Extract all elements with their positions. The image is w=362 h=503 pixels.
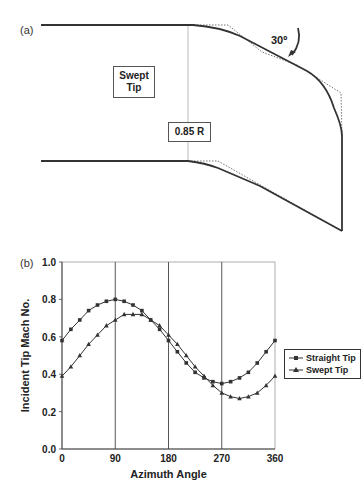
square-marker-icon <box>69 328 73 332</box>
square-marker-icon <box>122 299 126 303</box>
triangle-marker-icon <box>157 323 162 327</box>
square-marker-icon <box>96 303 100 307</box>
y-tick-label: 0.0 <box>42 444 56 455</box>
square-marker-icon <box>167 339 171 343</box>
x-tick-label: 180 <box>160 453 177 464</box>
mach-number-chart: 0901802703600.00.20.40.60.81.0Azimuth An… <box>0 0 362 503</box>
square-marker-icon <box>193 371 197 375</box>
square-marker-icon <box>247 371 251 375</box>
square-marker-icon <box>289 354 303 362</box>
legend-label: Straight Tip <box>306 353 356 363</box>
y-tick-label: 0.6 <box>42 332 56 343</box>
square-marker-icon <box>87 309 91 313</box>
square-marker-icon <box>131 303 135 307</box>
y-tick-label: 1.0 <box>42 257 56 268</box>
square-marker-icon <box>255 361 259 365</box>
square-marker-icon <box>229 380 233 384</box>
x-tick-label: 360 <box>267 453 284 464</box>
square-marker-icon <box>78 318 82 322</box>
square-marker-icon <box>264 350 268 354</box>
triangle-marker-icon <box>113 317 118 321</box>
square-marker-icon <box>176 350 180 354</box>
square-marker-icon <box>184 361 188 365</box>
triangle-marker-icon <box>289 366 303 374</box>
square-marker-icon <box>60 339 64 343</box>
square-marker-icon <box>238 376 242 380</box>
square-marker-icon <box>220 382 224 386</box>
legend-item-straight-tip: Straight Tip <box>289 352 356 364</box>
square-marker-icon <box>105 299 109 303</box>
legend-item-swept-tip: Swept Tip <box>289 364 356 376</box>
square-marker-icon <box>113 298 117 302</box>
y-tick-label: 0.2 <box>42 407 56 418</box>
y-tick-label: 0.8 <box>42 294 56 305</box>
y-tick-label: 0.4 <box>42 369 56 380</box>
legend-label: Swept Tip <box>306 365 348 375</box>
square-marker-icon <box>273 339 277 343</box>
x-axis-label: Azimuth Angle <box>130 468 207 480</box>
triangle-marker-icon <box>273 374 278 378</box>
square-marker-icon <box>158 328 162 332</box>
triangle-marker-icon <box>104 323 109 327</box>
x-tick-label: 270 <box>213 453 230 464</box>
x-tick-label: 0 <box>59 453 65 464</box>
y-axis-label: Incident Tip Mach No. <box>19 299 31 412</box>
chart-legend: Straight Tip Swept Tip <box>284 349 361 379</box>
x-tick-label: 90 <box>110 453 122 464</box>
